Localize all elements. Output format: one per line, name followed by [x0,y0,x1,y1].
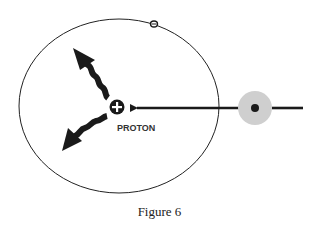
emitted-wave-arrow-up-left [73,48,108,98]
proton-label: PROTON [117,123,155,133]
emitted-wave-arrow-down-left [62,116,107,151]
proton [110,100,125,115]
figure-caption: Figure 6 [0,204,319,220]
electron [151,21,158,27]
incoming-particle [238,91,272,125]
atom-diagram: PROTON [0,0,319,227]
